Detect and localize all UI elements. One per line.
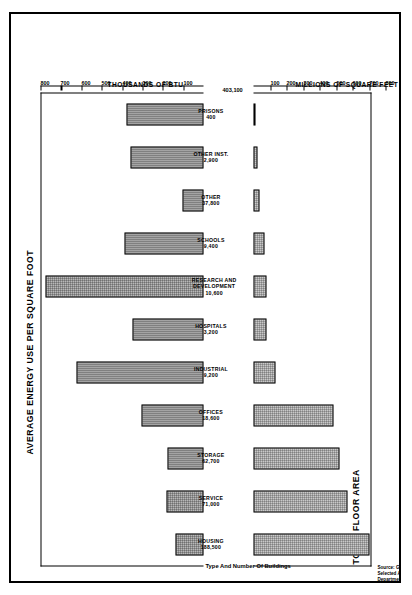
- energy-bar: [76, 361, 203, 383]
- building-count: 9,200: [203, 372, 217, 378]
- category-label: OTHER INST.2,900: [187, 150, 233, 163]
- floor-area-bar: [253, 361, 275, 383]
- category-label: OTHER37,800: [187, 193, 233, 206]
- axis-tick: [286, 85, 287, 90]
- floor-area-bar: [253, 189, 259, 211]
- building-count: 9,400: [203, 243, 217, 249]
- source-line-3: Department Of Energy: [377, 576, 401, 582]
- category-label-cell: PRISONS400: [203, 92, 253, 135]
- floor-area-bar: [253, 232, 264, 254]
- floor-area-bar: [253, 404, 333, 426]
- category-name: OFFICES: [198, 409, 222, 415]
- category-name: STORAGE: [197, 452, 224, 458]
- axis-tick-label: 100: [183, 79, 192, 85]
- category-label: STORAGE62,700: [187, 452, 233, 465]
- floor-area-bar: [253, 146, 257, 168]
- axis-tick: [60, 85, 61, 90]
- category-label: SERVICE71,000: [187, 495, 233, 508]
- floor-area-bar: [253, 490, 347, 512]
- source-line-1: Source: GSA Report of Real Property Owne…: [377, 564, 401, 570]
- total-buildings-value: 403,100: [222, 86, 242, 92]
- category-name: HOSPITALS: [195, 323, 227, 329]
- category-label-cell: SERVICE71,000: [203, 480, 253, 523]
- category-label-cell: SCHOOLS9,400: [203, 221, 253, 264]
- axis-tick-label: 100: [270, 79, 279, 85]
- floor-area-bar: [253, 447, 339, 469]
- category-label: OFFICES18,600: [187, 409, 233, 422]
- axis-tick: [270, 85, 271, 90]
- energy-axis-title: THOUSANDS OF BTU: [107, 80, 183, 87]
- category-label: PRISONS400: [187, 107, 233, 120]
- building-count: 10,600: [205, 289, 222, 295]
- floor-area-bar: [253, 318, 266, 340]
- category-header-label: Type And Number Of Buildings: [205, 562, 290, 568]
- building-count: 37,800: [202, 200, 219, 206]
- category-label-cell: OTHER INST.2,900: [203, 135, 253, 178]
- building-count: 18,600: [202, 415, 219, 421]
- axis-tick-label: 800: [40, 79, 49, 85]
- category-name: INDUSTRIAL: [193, 366, 227, 372]
- category-label-cell: OFFICES18,600: [203, 394, 253, 437]
- category-label-cell: OTHER37,800: [203, 178, 253, 221]
- category-name: HOUSING: [197, 538, 223, 544]
- category-label: RESEARCH AND DEVELOPMENT10,600: [191, 276, 237, 295]
- building-count: 400: [206, 114, 215, 120]
- category-label: INDUSTRIAL9,200: [187, 366, 233, 379]
- category-label: HOUSING188,500: [187, 538, 233, 551]
- category-label-band: HOUSING188,500SERVICE71,000STORAGE62,700…: [203, 92, 253, 566]
- category-label-cell: RESEARCH AND DEVELOPMENT10,600: [203, 264, 253, 307]
- axis-tick: [81, 85, 82, 90]
- energy-panel-title: AVERAGE ENERGY USE PER SQUARE FOOT: [24, 249, 34, 454]
- axis-tick-label: 700: [60, 79, 69, 85]
- category-name: PRISONS: [198, 107, 223, 113]
- source-note: Source: GSA Report of Real Property Owne…: [377, 564, 401, 582]
- chart-canvas: AVERAGE ENERGY USE PER SQUARE FOOT TOTAL…: [15, 15, 395, 580]
- axis-tick: [101, 85, 102, 90]
- building-count: 71,000: [202, 501, 219, 507]
- chart-page: AVERAGE ENERGY USE PER SQUARE FOOT TOTAL…: [0, 0, 412, 595]
- rotated-chart-wrapper: AVERAGE ENERGY USE PER SQUARE FOOT TOTAL…: [9, 12, 401, 583]
- category-label: HOSPITALS3,200: [187, 323, 233, 336]
- axis-tick-label: 200: [286, 79, 295, 85]
- floor-area-bar: [253, 533, 369, 555]
- building-count: 2,900: [203, 157, 217, 163]
- category-label-cell: STORAGE62,700: [203, 437, 253, 480]
- source-line-2: Selected Agency Reports: [377, 570, 401, 576]
- axis-tick: [40, 85, 41, 90]
- axis-tick-label: 600: [81, 79, 90, 85]
- category-name: OTHER INST.: [193, 150, 228, 156]
- category-name: RESEARCH AND DEVELOPMENT: [191, 276, 236, 288]
- building-count: 62,700: [202, 458, 219, 464]
- category-label-cell: HOSPITALS3,200: [203, 307, 253, 350]
- category-label-cell: INDUSTRIAL9,200: [203, 351, 253, 394]
- category-name: SERVICE: [198, 495, 222, 501]
- building-count: 188,500: [200, 544, 221, 550]
- category-label-cell: HOUSING188,500: [203, 523, 253, 566]
- floor-area-bar: [253, 275, 266, 297]
- building-count: 3,200: [203, 329, 217, 335]
- category-name: OTHER: [201, 193, 220, 199]
- floor-axis-title: MILLIONS OF SQUARE FEET: [295, 80, 398, 87]
- energy-bar: [45, 275, 203, 297]
- floor-area-bar: [253, 103, 255, 125]
- category-name: SCHOOLS: [197, 236, 224, 242]
- category-label: SCHOOLS9,400: [187, 236, 233, 249]
